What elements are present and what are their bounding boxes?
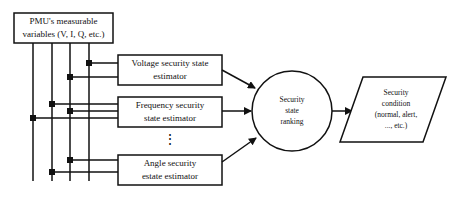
ellipsis-dots: ⋮ bbox=[160, 131, 180, 149]
output-label: Security condition (normal, alert, ..., … bbox=[358, 87, 434, 131]
output-label-line-2: condition bbox=[358, 98, 434, 109]
output-label-line-4: ..., etc.) bbox=[358, 120, 434, 131]
ranking-label-line-2: state bbox=[262, 105, 322, 116]
vertical-ellipsis-icon: ⋮ bbox=[160, 131, 180, 149]
arrows-to-ranking bbox=[222, 70, 256, 162]
source-label: PMU's measurable variables (V, I, Q, etc… bbox=[14, 15, 113, 41]
source-label-line-1: PMU's measurable bbox=[14, 15, 113, 28]
frequency-label-line-1: Frequency security bbox=[118, 99, 222, 112]
angle-label-line-2: estate estimator bbox=[118, 170, 222, 183]
ranking-label: Security state ranking bbox=[262, 94, 322, 127]
output-label-line-1: Security bbox=[358, 87, 434, 98]
voltage-label-line-2: estimator bbox=[118, 70, 222, 83]
frequency-estimator-label: Frequency security state estimator bbox=[118, 99, 222, 125]
ranking-label-line-3: ranking bbox=[262, 116, 322, 127]
voltage-estimator-label: Voltage security state estimator bbox=[118, 57, 222, 83]
voltage-label-line-1: Voltage security state bbox=[118, 57, 222, 70]
source-label-line-2: variables (V, I, Q, etc.) bbox=[14, 28, 113, 41]
frequency-label-line-2: state estimator bbox=[118, 112, 222, 125]
angle-estimator-label: Angle security estate estimator bbox=[118, 157, 222, 183]
tap-lines bbox=[33, 63, 118, 172]
angle-label-line-1: Angle security bbox=[118, 157, 222, 170]
ranking-label-line-1: Security bbox=[262, 94, 322, 105]
output-label-line-3: (normal, alert, bbox=[358, 109, 434, 120]
